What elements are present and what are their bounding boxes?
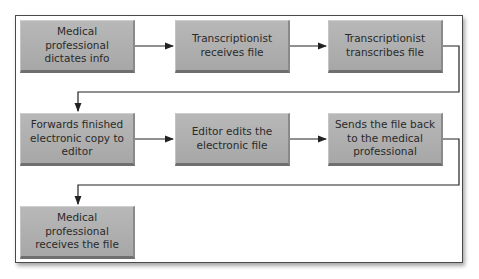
step-label: Forwards finished electronic copy to edi… bbox=[24, 118, 130, 159]
step-label: Editor edits the electronic file bbox=[179, 125, 285, 152]
step-transcriptionist-receives: Transcriptionist receives file bbox=[175, 20, 290, 73]
step-medical-professional-dictates: Medical professional dictates info bbox=[20, 20, 135, 73]
step-sends-back: Sends the file back to the medical profe… bbox=[328, 113, 443, 166]
step-label: Medical professional dictates info bbox=[24, 25, 130, 66]
step-label: Transcriptionist receives file bbox=[179, 32, 285, 59]
step-editor-edits: Editor edits the electronic file bbox=[175, 113, 290, 166]
step-transcriptionist-transcribes: Transcriptionist transcribes file bbox=[328, 20, 443, 73]
step-medical-professional-receives: Medical professional receives the file bbox=[20, 206, 135, 259]
step-label: Medical professional receives the file bbox=[24, 211, 130, 252]
step-label: Sends the file back to the medical profe… bbox=[332, 118, 438, 159]
step-forwards-to-editor: Forwards finished electronic copy to edi… bbox=[20, 113, 135, 166]
step-label: Transcriptionist transcribes file bbox=[332, 32, 438, 59]
